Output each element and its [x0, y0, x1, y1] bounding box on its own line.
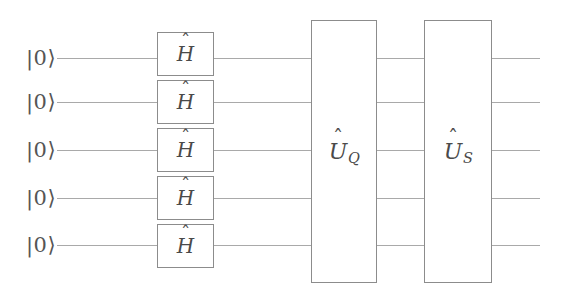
wire-segment-q1-h-to-uq [214, 58, 311, 59]
unitary-gate-us[interactable]: ˆUS [424, 20, 492, 283]
wire-segment-q2-in [57, 102, 157, 103]
wire-segment-q5-in [57, 245, 157, 246]
hadamard-gate-label-q3: ˆH [177, 140, 194, 160]
wire-segment-q4-out [492, 198, 540, 199]
hadamard-gate-q3[interactable]: ˆH [157, 128, 214, 172]
wire-segment-q1-uq-to-us [377, 58, 424, 59]
unitary-gate-label-uq: ˆUQ [329, 141, 359, 163]
wire-segment-q2-uq-to-us [377, 102, 424, 103]
wire-segment-q3-out [492, 150, 540, 151]
wire-segment-q5-out [492, 245, 540, 246]
hadamard-gate-q4[interactable]: ˆH [157, 176, 214, 220]
unitary-gate-uq[interactable]: ˆUQ [311, 20, 377, 283]
hat-accent-icon: ˆ [177, 225, 194, 243]
qubit-init-label-q5: |0⟩ [26, 235, 56, 256]
qubit-init-label-q2: |0⟩ [26, 92, 56, 113]
wire-segment-q3-uq-to-us [377, 150, 424, 151]
hadamard-gate-label-q1: ˆH [177, 44, 194, 64]
hadamard-gate-label-q2: ˆH [177, 92, 194, 112]
hat-accent-icon: ˆ [177, 81, 194, 99]
wire-segment-q4-h-to-uq [214, 198, 311, 199]
hadamard-gate-q2[interactable]: ˆH [157, 80, 214, 124]
qubit-init-label-q1: |0⟩ [26, 48, 56, 69]
hadamard-gate-q1[interactable]: ˆH [157, 32, 214, 76]
quantum-circuit-diagram: |0⟩ |0⟩ |0⟩ |0⟩ |0⟩ ˆH ˆH ˆH ˆH ˆH ˆUQ [0, 0, 567, 300]
wire-segment-q1-in [57, 58, 157, 59]
wire-segment-q4-in [57, 198, 157, 199]
hadamard-gate-label-q4: ˆH [177, 188, 194, 208]
unitary-gate-label-us: ˆUS [444, 141, 473, 163]
wire-segment-q3-h-to-uq [214, 150, 311, 151]
qubit-init-label-q3: |0⟩ [26, 140, 56, 161]
wire-segment-q5-h-to-uq [214, 245, 311, 246]
hat-accent-icon: ˆ [329, 128, 348, 148]
qubit-init-label-q4: |0⟩ [26, 188, 56, 209]
hadamard-gate-label-q5: ˆH [177, 236, 194, 256]
wire-segment-q5-uq-to-us [377, 245, 424, 246]
wire-segment-q2-out [492, 102, 540, 103]
hat-accent-icon: ˆ [177, 33, 194, 51]
hadamard-gate-q5[interactable]: ˆH [157, 224, 214, 268]
hat-accent-icon: ˆ [177, 129, 194, 147]
hat-accent-icon: ˆ [444, 128, 463, 148]
wire-segment-q4-uq-to-us [377, 198, 424, 199]
unitary-subscript: Q [348, 150, 360, 166]
hat-accent-icon: ˆ [177, 177, 194, 195]
wire-segment-q2-h-to-uq [214, 102, 311, 103]
wire-segment-q1-out [492, 58, 540, 59]
wire-segment-q3-in [57, 150, 157, 151]
unitary-subscript: S [463, 150, 473, 166]
